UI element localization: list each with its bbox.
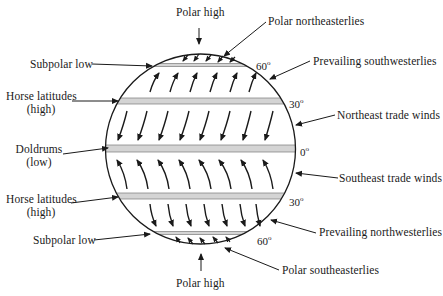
degree-symbol: o <box>267 59 271 67</box>
doldrums-label: Doldrums (low) <box>14 143 64 169</box>
latitude-30s-value: 30 <box>289 196 300 208</box>
northeast-trade-winds-arrows <box>118 111 273 140</box>
polar-high-bottom-label: Polar high <box>176 277 225 290</box>
subpolar-low-north-pointer <box>92 64 152 66</box>
latitude-equator-label: 0o <box>300 143 309 158</box>
southeast-trade-winds-pointer <box>296 173 338 178</box>
horse-latitudes-north-line2: (high) <box>6 103 76 116</box>
prevailing-northwesterlies-label: Prevailing northwesterlies <box>319 226 442 239</box>
prevailing-southwesterlies-pointer <box>270 61 310 79</box>
latitude-60n-value: 60 <box>256 60 267 72</box>
band-30n <box>100 98 300 104</box>
latitude-60s-label: 60o <box>257 232 272 247</box>
degree-symbol: o <box>300 195 304 203</box>
horse-latitudes-south-line1: Horse latitudes <box>6 193 76 206</box>
subpolar-low-south-label: Subpolar low <box>33 234 96 247</box>
horse-latitudes-south-line2: (high) <box>6 206 76 219</box>
prevailing-southwesterlies-arrows <box>150 73 256 92</box>
horse-latitudes-north-label: Horse latitudes (high) <box>6 90 76 116</box>
prevailing-southwesterlies-label: Prevailing southwesterlies <box>313 55 437 68</box>
horse-latitudes-south-pointer <box>71 197 118 203</box>
latitude-60s-value: 60 <box>257 235 268 247</box>
latitude-60n-label: 60o <box>256 57 271 72</box>
subpolar-low-south-pointer <box>94 234 150 240</box>
horse-latitudes-south-label: Horse latitudes (high) <box>6 193 76 219</box>
band-equator <box>100 145 300 152</box>
polar-high-top-label: Polar high <box>176 6 225 19</box>
horse-latitudes-north-line1: Horse latitudes <box>6 90 76 103</box>
doldrums-line2: (low) <box>14 156 64 169</box>
degree-symbol: o <box>268 234 272 242</box>
polar-southeasterlies-label: Polar southeasterlies <box>282 264 379 277</box>
band-30s <box>100 193 300 199</box>
northeast-trade-winds-pointer <box>296 115 335 125</box>
polar-northeasterlies-pointer <box>224 22 266 56</box>
latitude-30s-label: 30o <box>289 193 304 208</box>
southeast-trade-winds-arrows <box>117 160 273 189</box>
doldrums-line1: Doldrums <box>14 143 64 156</box>
northeast-trade-winds-label: Northeast trade winds <box>337 109 440 122</box>
polar-northeasterlies-label: Polar northeasterlies <box>268 15 364 28</box>
degree-symbol: o <box>306 145 310 153</box>
degree-symbol: o <box>300 97 304 105</box>
wind-belts-diagram <box>0 0 443 296</box>
polar-southeasterlies-pointer <box>225 248 279 270</box>
prevailing-northwesterlies-pointer <box>271 220 316 233</box>
pressure-bands <box>100 64 300 235</box>
latitude-30n-value: 30 <box>289 98 300 110</box>
doldrums-pointer <box>63 148 108 154</box>
southeast-trade-winds-label: Southeast trade winds <box>339 172 442 185</box>
subpolar-low-north-label: Subpolar low <box>30 58 93 71</box>
latitude-30n-label: 30o <box>289 95 304 110</box>
prevailing-northwesterlies-arrows <box>150 204 260 226</box>
